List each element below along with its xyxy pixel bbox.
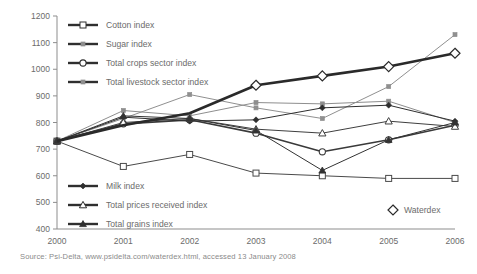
data-point-marker bbox=[188, 93, 192, 97]
legend-item-top-1: Sugar index bbox=[68, 39, 153, 49]
data-point-marker bbox=[319, 167, 326, 173]
source-caption: Source: Psi-Delta, www.psidelta.com/wate… bbox=[20, 252, 296, 261]
data-point-marker bbox=[384, 62, 394, 72]
legend-label: Cotton index bbox=[106, 20, 155, 30]
legend-item-bottom-0: Milk index bbox=[68, 181, 145, 191]
data-point-marker bbox=[453, 33, 457, 37]
data-point-marker bbox=[80, 60, 86, 66]
legend-label: Total prices received index bbox=[106, 200, 208, 210]
data-point-marker bbox=[385, 118, 392, 124]
legend-item-bottom-1: Total prices received index bbox=[68, 200, 208, 210]
legend-label: Total livestock sector index bbox=[106, 77, 209, 87]
data-point-marker bbox=[319, 173, 325, 179]
data-point-marker bbox=[319, 149, 325, 155]
x-tick-label: 2005 bbox=[379, 236, 398, 246]
y-tick-label: 500 bbox=[36, 197, 50, 207]
data-point-marker bbox=[387, 85, 391, 89]
legend-item-bottom-2: Total grains index bbox=[68, 219, 174, 229]
legend-label: Total grains index bbox=[106, 219, 174, 229]
legend-item-top-2: Total crops sector index bbox=[68, 58, 197, 68]
chart-figure: 4005006007008009001000110012002000200120… bbox=[0, 0, 477, 274]
data-point-marker bbox=[317, 71, 327, 81]
x-tick-label: 2001 bbox=[114, 236, 133, 246]
line-chart: 4005006007008009001000110012002000200120… bbox=[0, 0, 477, 274]
legend-item-waterdex: Waterdex bbox=[388, 205, 441, 215]
x-tick-label: 2006 bbox=[446, 236, 465, 246]
y-tick-label: 700 bbox=[36, 144, 50, 154]
data-point-marker bbox=[253, 170, 259, 176]
legend-item-top-0: Cotton index bbox=[68, 20, 155, 30]
data-point-marker bbox=[80, 22, 86, 28]
data-point-marker bbox=[251, 80, 261, 90]
data-point-marker bbox=[452, 175, 458, 181]
data-point-marker bbox=[388, 205, 398, 215]
y-tick-label: 800 bbox=[36, 118, 50, 128]
y-tick-label: 900 bbox=[36, 91, 50, 101]
data-point-marker bbox=[81, 80, 85, 84]
data-point-marker bbox=[81, 42, 85, 46]
data-point-marker bbox=[254, 101, 258, 105]
legend-label: Waterdex bbox=[404, 205, 441, 215]
series-cotton-index bbox=[54, 138, 458, 181]
data-point-marker bbox=[80, 183, 86, 189]
data-point-marker bbox=[253, 117, 259, 123]
y-tick-label: 400 bbox=[36, 224, 50, 234]
legend-label: Total crops sector index bbox=[106, 58, 197, 68]
legend-label: Sugar index bbox=[106, 39, 153, 49]
data-point-marker bbox=[386, 175, 392, 181]
x-tick-label: 2003 bbox=[247, 236, 266, 246]
legend-label: Milk index bbox=[106, 181, 145, 191]
data-point-marker bbox=[320, 117, 324, 121]
x-tick-label: 2004 bbox=[313, 236, 332, 246]
data-point-marker bbox=[120, 163, 126, 169]
data-point-marker bbox=[254, 106, 258, 110]
x-tick-label: 2002 bbox=[180, 236, 199, 246]
y-tick-label: 1200 bbox=[31, 11, 50, 21]
legend-item-top-3: Total livestock sector index bbox=[68, 77, 209, 87]
x-tick-label: 2000 bbox=[48, 236, 67, 246]
data-point-marker bbox=[187, 151, 193, 157]
data-point-marker bbox=[450, 48, 460, 58]
y-tick-label: 1000 bbox=[31, 64, 50, 74]
y-tick-label: 1100 bbox=[32, 38, 51, 48]
y-tick-label: 600 bbox=[36, 171, 50, 181]
